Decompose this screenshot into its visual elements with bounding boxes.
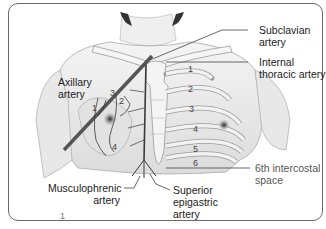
rib-number-5: 5 xyxy=(193,144,198,154)
branch-number-4: 4 xyxy=(112,142,117,152)
label-musculophrenic-artery: Musculophrenic artery xyxy=(48,182,120,206)
branch-number-1: 1 xyxy=(92,103,97,113)
rib-number-1: 1 xyxy=(188,64,193,74)
label-6th-intercostal-space: 6th intercostal space xyxy=(255,162,320,186)
label-axillary-artery: Axillary artery xyxy=(58,76,92,100)
label-subclavian-artery: Subclavian artery xyxy=(259,24,310,48)
branch-number-2: 2 xyxy=(119,96,124,106)
label-superior-epigastric-artery: Superior epigastric artery xyxy=(173,184,218,220)
neck xyxy=(120,12,184,46)
branch-number-3: 3 xyxy=(110,88,115,98)
figure-number: 1 xyxy=(60,211,65,221)
right-nipple xyxy=(218,119,230,131)
rib-number-6: 6 xyxy=(193,158,198,168)
rib-number-3: 3 xyxy=(189,104,194,114)
right-shoulder xyxy=(255,70,290,150)
label-internal-thoracic-artery: Internal thoracic artery xyxy=(259,56,326,80)
rib-number-4: 4 xyxy=(193,124,198,134)
rib-number-2: 2 xyxy=(188,84,193,94)
